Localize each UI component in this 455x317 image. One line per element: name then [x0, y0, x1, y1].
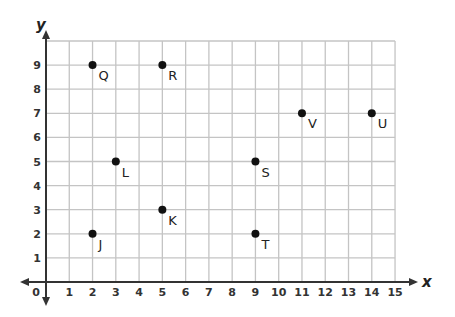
- y-tick-label: 4: [33, 180, 41, 193]
- point-j: J: [89, 230, 103, 252]
- point-marker: [89, 230, 97, 238]
- x-tick-label: 6: [182, 286, 190, 299]
- x-tick-label: 7: [205, 286, 213, 299]
- point-marker: [251, 230, 259, 238]
- point-t: T: [251, 230, 269, 252]
- point-label: K: [168, 213, 177, 228]
- point-label: R: [168, 68, 177, 83]
- y-tick-label: 3: [33, 204, 41, 217]
- point-marker: [89, 61, 97, 69]
- point-q: Q: [89, 61, 109, 83]
- point-label: S: [261, 165, 269, 180]
- x-tick-label: 15: [387, 286, 402, 299]
- point-label: V: [308, 116, 317, 131]
- y-tick-label: 1: [33, 252, 41, 265]
- x-tick-label: 4: [135, 286, 143, 299]
- tick-labels: 0123456789101112131415123456789: [32, 59, 403, 299]
- point-u: U: [368, 109, 388, 131]
- x-tick-label: 12: [318, 286, 333, 299]
- axes: [20, 30, 418, 306]
- point-marker: [251, 158, 259, 166]
- point-marker: [368, 109, 376, 117]
- x-tick-label: 11: [294, 286, 309, 299]
- point-label: U: [378, 116, 388, 131]
- point-s: S: [251, 158, 269, 180]
- coordinate-plane: 0123456789101112131415123456789 QRVULSKJ…: [0, 0, 455, 317]
- x-tick-label: 3: [112, 286, 120, 299]
- x-axis-left-arrow-icon: [20, 278, 29, 286]
- x-tick-label: 8: [228, 286, 236, 299]
- x-axis-right-arrow-icon: [409, 278, 418, 286]
- x-tick-label: 10: [271, 286, 287, 299]
- x-tick-label: 1: [65, 286, 73, 299]
- point-label: T: [260, 237, 269, 252]
- point-k: K: [158, 206, 177, 228]
- point-marker: [112, 158, 120, 166]
- y-axis-down-arrow-icon: [42, 297, 50, 306]
- x-tick-label: 2: [89, 286, 97, 299]
- x-tick-label: 14: [364, 286, 380, 299]
- x-tick-label: 5: [159, 286, 167, 299]
- x-tick-label: 9: [252, 286, 260, 299]
- y-tick-label: 5: [33, 156, 41, 169]
- point-label: L: [122, 165, 130, 180]
- point-marker: [158, 61, 166, 69]
- y-tick-label: 8: [33, 83, 41, 96]
- point-l: L: [112, 158, 130, 180]
- point-v: V: [298, 109, 317, 131]
- point-marker: [158, 206, 166, 214]
- y-axis-label: y: [36, 16, 47, 34]
- y-tick-label: 2: [33, 228, 41, 241]
- point-marker: [298, 109, 306, 117]
- point-label: Q: [99, 68, 109, 83]
- x-axis-label: x: [421, 273, 433, 291]
- point-label: J: [98, 237, 103, 252]
- y-tick-label: 6: [33, 131, 41, 144]
- x-tick-label: 13: [341, 286, 356, 299]
- y-tick-label: 7: [33, 107, 41, 120]
- point-r: R: [158, 61, 177, 83]
- x-tick-label: 0: [32, 286, 40, 299]
- y-tick-label: 9: [33, 59, 41, 72]
